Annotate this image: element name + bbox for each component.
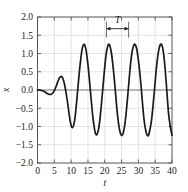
y-tick-label: 2.0 [21,12,33,22]
figure-container: 0510152025303540 −2.0−1.5−1.0−0.50.00.51… [0,0,188,192]
y-tick-label: −1.5 [16,140,33,150]
x-tick-label: 20 [100,166,110,176]
y-tick-label: −1.0 [16,122,33,132]
y-tick-label: 0.5 [21,67,33,77]
y-tick-label: −2.0 [16,158,33,168]
x-tick-label: 5 [52,166,57,176]
x-axis-tick-labels: 0510152025303540 [35,166,177,176]
y-tick-label: −0.5 [16,104,33,114]
y-axis-label: x [1,87,11,93]
x-tick-label: 30 [134,166,144,176]
x-tick-label: 0 [35,166,40,176]
y-tick-label: 1.5 [21,31,33,41]
x-tick-label: 10 [66,166,76,176]
x-tick-label: 15 [83,166,93,176]
period-label: T [115,15,121,25]
y-tick-label: 1.0 [21,49,33,59]
y-tick-label: 0.0 [21,85,33,95]
x-axis-label: t [103,178,106,188]
x-tick-label: 25 [117,166,127,176]
x-tick-label: 35 [150,166,160,176]
x-tick-label: 40 [167,166,177,176]
oscillation-line-chart: 0510152025303540 −2.0−1.5−1.0−0.50.00.51… [0,0,188,192]
